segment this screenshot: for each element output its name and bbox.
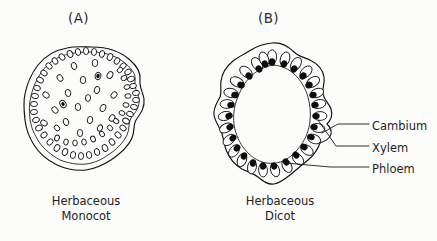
leader-line-cambium xyxy=(322,124,369,133)
dicot-cross-section xyxy=(214,43,332,184)
caption-monocot-line1: Herbaceous xyxy=(52,194,121,208)
vascular-bundle xyxy=(311,98,327,109)
monocot-cross-section xyxy=(24,47,144,171)
vascular-bundle xyxy=(269,162,281,178)
callout-label-xylem: Xylem xyxy=(372,141,408,155)
figure-root: (A) (B) Herbaceous Monocot Herbaceous Di… xyxy=(0,0,437,241)
vascular-bundle xyxy=(217,110,233,122)
vascular-bundle-labeled xyxy=(312,112,327,121)
vascular-bundle xyxy=(229,75,246,90)
vascular-bundle xyxy=(218,121,235,135)
vascular-bundle xyxy=(280,157,295,174)
vascular-bundle xyxy=(220,99,235,108)
vascular-bundle xyxy=(223,87,239,99)
caption-dicot-line2: Dicot xyxy=(212,209,348,224)
dicot-pith-boundary xyxy=(234,65,311,163)
callout-label-phloem: Phloem xyxy=(372,162,415,176)
caption-monocot: Herbaceous Monocot xyxy=(18,194,154,223)
vascular-bundle xyxy=(258,162,268,177)
caption-dicot: Herbaceous Dicot xyxy=(212,194,348,223)
caption-monocot-line2: Monocot xyxy=(18,209,154,224)
monocot-scattered-bundles xyxy=(40,59,119,137)
vascular-bundle xyxy=(246,159,257,175)
panel-letter-b: (B) xyxy=(258,10,279,26)
callout-label-cambium: Cambium xyxy=(372,119,427,133)
caption-dicot-line1: Herbaceous xyxy=(246,194,315,208)
panel-letter-a: (A) xyxy=(68,10,89,26)
